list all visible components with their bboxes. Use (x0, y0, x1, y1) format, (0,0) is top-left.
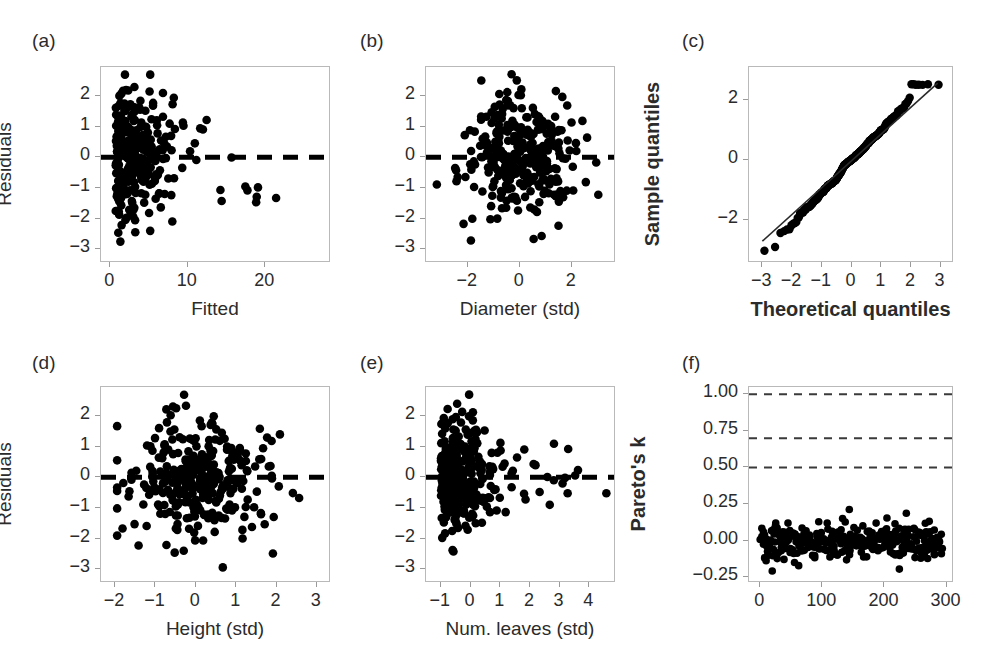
y-tick-label: 1 (22, 434, 90, 455)
x-tick-mark (883, 582, 884, 587)
y-tick-label: 0 (22, 464, 90, 485)
y-tick-mark (420, 568, 425, 569)
y-tick-mark (95, 248, 100, 249)
x-tick-label: 20 (224, 270, 304, 291)
y-axis-label-f: Pareto's k (627, 437, 650, 532)
x-tick-mark (761, 262, 762, 267)
y-tick-mark (420, 187, 425, 188)
y-tick-mark (95, 507, 100, 508)
y-tick-mark (95, 126, 100, 127)
x-tick-mark (440, 582, 441, 587)
y-tick-mark (95, 476, 100, 477)
y-tick-label: 0 (22, 144, 90, 165)
y-tick-mark (95, 218, 100, 219)
y-axis-label-a: Residuals (0, 122, 16, 205)
x-tick-mark (529, 582, 530, 587)
plot-area-c (748, 66, 953, 262)
x-axis-label-e: Num. leaves (std) (365, 618, 675, 640)
x-tick-mark (235, 582, 236, 587)
y-tick-mark (95, 187, 100, 188)
y-tick-label: 1 (347, 114, 415, 135)
y-tick-label: 1 (347, 434, 415, 455)
y-tick-mark (743, 219, 748, 220)
x-tick-mark (946, 582, 947, 587)
y-tick-label: −3 (347, 236, 415, 257)
y-tick-label: 1 (22, 114, 90, 135)
panel-label-b: (b) (360, 30, 384, 52)
y-tick-label: 2 (347, 403, 415, 424)
y-tick-label: −3 (22, 556, 90, 577)
x-tick-mark (588, 582, 589, 587)
y-tick-label: 0 (670, 147, 738, 168)
x-tick-mark (195, 582, 196, 587)
y-axis-label-c: Sample quantiles (641, 82, 664, 247)
y-tick-mark (420, 476, 425, 477)
x-tick-mark (499, 582, 500, 587)
x-tick-mark (851, 262, 852, 267)
y-tick-label: 2 (670, 87, 738, 108)
x-tick-mark (187, 262, 188, 267)
y-tick-mark (95, 446, 100, 447)
y-tick-label: 2 (22, 403, 90, 424)
y-tick-mark (95, 415, 100, 416)
plot-area-d (100, 386, 330, 582)
panel-label-d: (d) (32, 352, 56, 374)
y-tick-mark (420, 538, 425, 539)
y-tick-mark (420, 126, 425, 127)
y-tick-label: 0 (347, 464, 415, 485)
y-tick-mark (95, 538, 100, 539)
y-tick-mark (420, 507, 425, 508)
plot-area-e (425, 386, 615, 582)
y-tick-label: −0.25 (670, 564, 738, 585)
y-tick-label: −1 (347, 495, 415, 516)
panel-label-e: (e) (360, 352, 384, 374)
y-tick-mark (743, 99, 748, 100)
x-tick-mark (571, 262, 572, 267)
y-axis-label-d: Residuals (0, 442, 16, 525)
x-tick-label: 3 (900, 270, 980, 291)
y-tick-mark (420, 218, 425, 219)
x-tick-mark (109, 262, 110, 267)
x-tick-mark (114, 582, 115, 587)
y-tick-mark (420, 415, 425, 416)
plot-area-b (425, 66, 615, 262)
qq-reference-line (762, 83, 937, 241)
y-tick-mark (420, 156, 425, 157)
x-tick-mark (880, 262, 881, 267)
y-tick-mark (743, 540, 748, 541)
x-axis-label-d: Height (std) (40, 618, 390, 640)
x-tick-mark (791, 262, 792, 267)
x-tick-label: 2 (531, 270, 611, 291)
x-tick-mark (821, 262, 822, 267)
y-tick-label: −1 (347, 175, 415, 196)
x-tick-mark (821, 582, 822, 587)
diagnostic-figure: (a)210−1−2−301020ResidualsFitted(b)210−1… (0, 0, 1002, 661)
y-tick-label: 2 (22, 83, 90, 104)
y-tick-mark (743, 430, 748, 431)
y-tick-label: −3 (22, 236, 90, 257)
x-tick-label: 4 (548, 590, 628, 611)
x-tick-mark (759, 582, 760, 587)
y-tick-mark (743, 466, 748, 467)
y-tick-mark (95, 156, 100, 157)
y-tick-label: 0 (347, 144, 415, 165)
x-axis-label-a: Fitted (40, 298, 390, 320)
y-tick-label: −2 (22, 206, 90, 227)
y-tick-mark (95, 568, 100, 569)
y-tick-label: 0.00 (670, 528, 738, 549)
y-tick-mark (743, 503, 748, 504)
y-tick-mark (743, 576, 748, 577)
y-tick-label: −1 (22, 175, 90, 196)
y-tick-label: 0.50 (670, 454, 738, 475)
x-tick-mark (519, 262, 520, 267)
y-tick-label: −2 (22, 526, 90, 547)
x-tick-label: 10 (147, 270, 227, 291)
x-tick-label: 3 (276, 590, 356, 611)
plot-area-a (100, 66, 330, 262)
panel-label-f: (f) (682, 352, 701, 374)
x-tick-mark (470, 582, 471, 587)
plot-area-f (748, 386, 953, 582)
y-tick-mark (420, 248, 425, 249)
x-tick-mark (264, 262, 265, 267)
x-tick-mark (154, 582, 155, 587)
